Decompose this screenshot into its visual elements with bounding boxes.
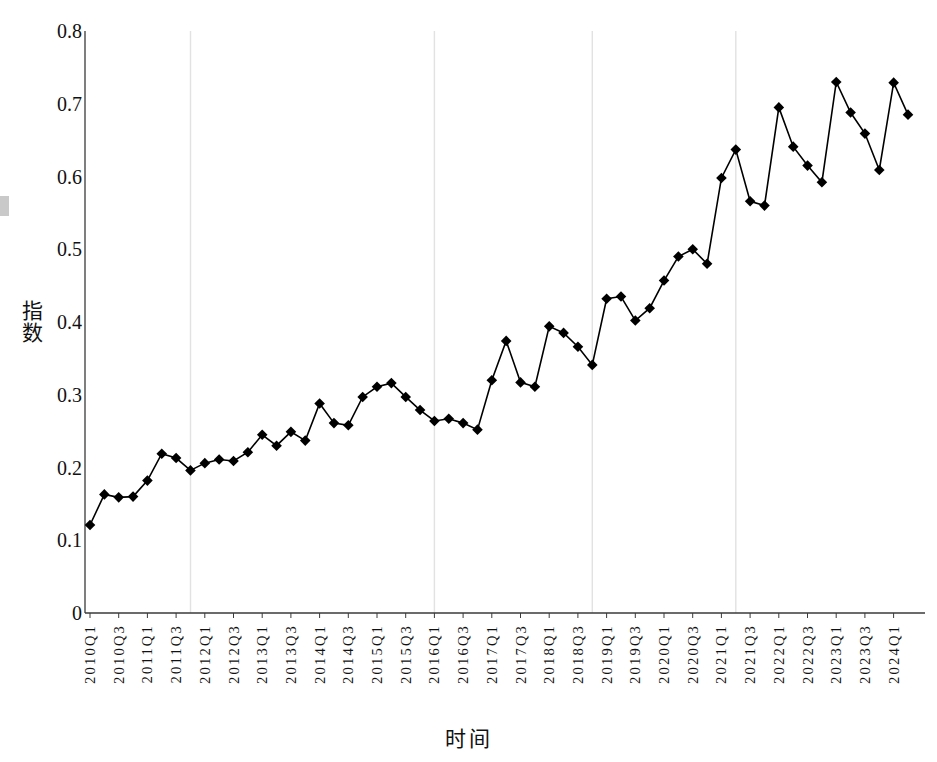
x-axis-tick-2017Q1: 2017Q1 bbox=[483, 624, 500, 684]
chart-container: 指数 00.10.20.30.40.50.60.70.8 2010Q12010Q… bbox=[0, 0, 937, 762]
x-axis-tick-label-wrap: 2011Q1 bbox=[139, 624, 155, 716]
x-axis-tick-2014Q3: 2014Q3 bbox=[340, 624, 357, 684]
x-axis-tick-2017Q3: 2017Q3 bbox=[512, 624, 529, 684]
x-axis-tick-label-wrap: 2020Q3 bbox=[685, 624, 701, 716]
x-axis-tick-2023Q1: 2023Q1 bbox=[828, 624, 845, 684]
x-axis-tick-label-wrap: 2018Q3 bbox=[570, 624, 586, 716]
x-axis-tick-label-wrap: 2017Q3 bbox=[513, 624, 529, 716]
x-axis-tick-2016Q1: 2016Q1 bbox=[426, 624, 443, 684]
x-axis-tick-label-wrap: 2016Q3 bbox=[455, 624, 471, 716]
x-axis-tick-2011Q1: 2011Q1 bbox=[139, 624, 156, 683]
x-axis-tick-2019Q3: 2019Q3 bbox=[627, 624, 644, 684]
x-axis-tick-2018Q1: 2018Q1 bbox=[541, 624, 558, 684]
x-axis-tick-label-wrap: 2010Q1 bbox=[82, 624, 98, 716]
x-axis-tick-2022Q1: 2022Q1 bbox=[770, 624, 787, 684]
x-axis-tick-2010Q3: 2010Q3 bbox=[110, 624, 127, 684]
x-axis-tick-label-wrap: 2012Q3 bbox=[226, 624, 242, 716]
x-axis-tick-2012Q1: 2012Q1 bbox=[196, 624, 213, 684]
x-axis-tick-label-wrap: 2012Q1 bbox=[197, 624, 213, 716]
x-axis-tick-label-wrap: 2015Q3 bbox=[398, 624, 414, 716]
x-axis-tick-label-wrap: 2013Q1 bbox=[254, 624, 270, 716]
x-axis-tick-label-wrap: 2020Q1 bbox=[656, 624, 672, 716]
x-axis-tick-label-wrap: 2021Q1 bbox=[713, 624, 729, 716]
x-axis-tick-2013Q3: 2013Q3 bbox=[282, 624, 299, 684]
x-axis-tick-label-wrap: 2023Q1 bbox=[828, 624, 844, 716]
x-axis-tick-2018Q3: 2018Q3 bbox=[569, 624, 586, 684]
x-axis-tick-2012Q3: 2012Q3 bbox=[225, 624, 242, 684]
x-axis-tick-label-wrap: 2022Q1 bbox=[771, 624, 787, 716]
x-axis-tick-2021Q3: 2021Q3 bbox=[742, 624, 759, 684]
x-axis-tick-2013Q1: 2013Q1 bbox=[254, 624, 271, 684]
x-axis-tick-labels: 2010Q12010Q32011Q12011Q32012Q12012Q32013… bbox=[0, 0, 937, 762]
x-axis-tick-label-wrap: 2021Q3 bbox=[742, 624, 758, 716]
x-axis-tick-label-wrap: 2011Q3 bbox=[168, 624, 184, 716]
x-axis-tick-label-wrap: 2019Q1 bbox=[599, 624, 615, 716]
x-axis-tick-2020Q3: 2020Q3 bbox=[684, 624, 701, 684]
x-axis-title: 时间 bbox=[0, 722, 937, 752]
x-axis-tick-label-wrap: 2019Q3 bbox=[627, 624, 643, 716]
x-axis-tick-2019Q1: 2019Q1 bbox=[598, 624, 615, 684]
x-axis-tick-label-wrap: 2014Q3 bbox=[340, 624, 356, 716]
x-axis-tick-label-wrap: 2017Q1 bbox=[484, 624, 500, 716]
x-axis-tick-2022Q3: 2022Q3 bbox=[799, 624, 816, 684]
x-axis-tick-2014Q1: 2014Q1 bbox=[311, 624, 328, 684]
x-axis-tick-2011Q3: 2011Q3 bbox=[168, 624, 185, 683]
x-axis-tick-2015Q3: 2015Q3 bbox=[397, 624, 414, 684]
x-axis-tick-2016Q3: 2016Q3 bbox=[455, 624, 472, 684]
x-axis-tick-2023Q3: 2023Q3 bbox=[856, 624, 873, 684]
x-axis-tick-label-wrap: 2023Q3 bbox=[857, 624, 873, 716]
x-axis-tick-label-wrap: 2018Q1 bbox=[541, 624, 557, 716]
x-axis-tick-2024Q1: 2024Q1 bbox=[885, 624, 902, 684]
x-axis-tick-2010Q1: 2010Q1 bbox=[82, 624, 99, 684]
x-axis-tick-label-wrap: 2010Q3 bbox=[111, 624, 127, 716]
x-axis-tick-label-wrap: 2015Q1 bbox=[369, 624, 385, 716]
x-axis-tick-label-wrap: 2022Q3 bbox=[800, 624, 816, 716]
x-axis-tick-2021Q1: 2021Q1 bbox=[713, 624, 730, 684]
x-axis-tick-2015Q1: 2015Q1 bbox=[369, 624, 386, 684]
x-axis-tick-label-wrap: 2014Q1 bbox=[312, 624, 328, 716]
x-axis-tick-label-wrap: 2024Q1 bbox=[886, 624, 902, 716]
x-axis-tick-label-wrap: 2013Q3 bbox=[283, 624, 299, 716]
x-axis-tick-label-wrap: 2016Q1 bbox=[426, 624, 442, 716]
x-axis-tick-2020Q1: 2020Q1 bbox=[656, 624, 673, 684]
